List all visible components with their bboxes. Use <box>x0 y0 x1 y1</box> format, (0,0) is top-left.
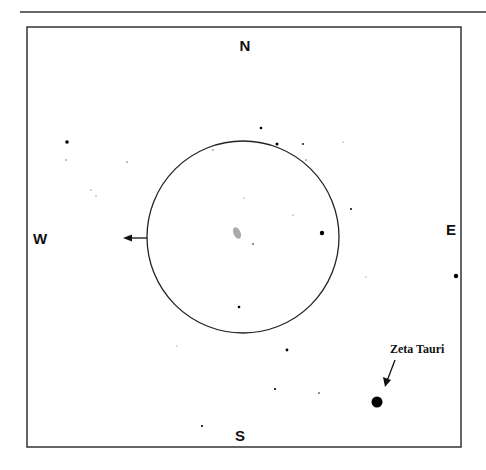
star <box>252 243 254 245</box>
chart-frame <box>27 27 461 447</box>
star <box>65 159 66 160</box>
star <box>343 142 344 143</box>
star <box>201 425 203 427</box>
star <box>350 208 352 210</box>
star <box>292 214 293 215</box>
star <box>454 274 458 278</box>
star <box>276 143 279 146</box>
star <box>318 392 320 394</box>
star <box>65 140 69 144</box>
star <box>302 143 304 145</box>
west-label: W <box>33 230 48 247</box>
star <box>95 195 96 196</box>
star <box>305 159 306 160</box>
star <box>320 231 324 235</box>
star <box>90 189 91 190</box>
finder-chart: Zeta Tauri N S E W <box>0 0 486 470</box>
star <box>366 277 367 278</box>
zeta-tauri-star <box>372 397 383 408</box>
star <box>274 388 276 390</box>
star <box>126 161 127 162</box>
star <box>238 306 241 309</box>
north-label: N <box>240 37 251 54</box>
star <box>286 349 289 352</box>
star <box>260 127 263 130</box>
star <box>177 346 178 347</box>
star <box>244 198 245 199</box>
star <box>212 149 213 150</box>
target-star-label: Zeta Tauri <box>390 342 445 356</box>
south-label: S <box>235 427 245 444</box>
east-label: E <box>446 221 456 238</box>
